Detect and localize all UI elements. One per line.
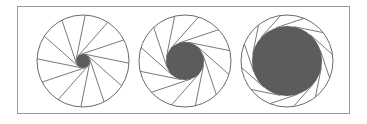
blade-edge	[154, 27, 167, 67]
small-aperture	[37, 15, 129, 107]
aperture-diagram	[0, 0, 367, 124]
blade-edge	[42, 68, 85, 82]
blade-edge	[90, 59, 104, 102]
medium-aperture	[139, 15, 231, 107]
blade-edge	[203, 55, 216, 95]
blade-edge	[179, 30, 219, 43]
blade-edge	[62, 20, 76, 63]
blade-edge	[81, 40, 124, 54]
blade-edge	[151, 79, 191, 92]
large-aperture	[241, 15, 333, 107]
